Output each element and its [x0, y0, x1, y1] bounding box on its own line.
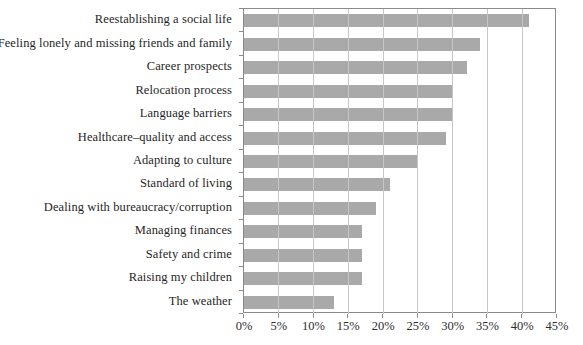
- category-label: Adapting to culture: [0, 149, 238, 172]
- y-axis-tick: [239, 196, 243, 197]
- gridline: [383, 9, 384, 314]
- x-tick-label: 30%: [441, 319, 464, 334]
- x-tick-label: 45%: [546, 319, 569, 334]
- category-label: Safety and crime: [0, 243, 238, 266]
- x-tick-label: 15%: [337, 319, 360, 334]
- y-axis-tick: [239, 125, 243, 126]
- plot-area: [243, 8, 556, 313]
- x-tick-label: 25%: [406, 319, 429, 334]
- y-axis-tick: [239, 313, 243, 314]
- category-label: Relocation process: [0, 78, 238, 101]
- x-axis-tick: [278, 314, 279, 318]
- x-axis-tick: [486, 314, 487, 318]
- bar: [244, 202, 376, 215]
- category-label: Raising my children: [0, 266, 238, 289]
- x-axis-tick: [556, 314, 557, 318]
- gridline: [522, 9, 523, 314]
- bar: [244, 296, 334, 309]
- gridline: [487, 9, 488, 314]
- x-axis-tick: [347, 314, 348, 318]
- bar: [244, 225, 362, 238]
- x-axis-tick: [243, 314, 244, 318]
- x-tick-label: 0%: [236, 319, 253, 334]
- y-axis-tick: [239, 102, 243, 103]
- y-axis-tick: [239, 8, 243, 9]
- category-label: Feeling lonely and missing friends and f…: [0, 31, 238, 54]
- x-tick-label: 10%: [302, 319, 325, 334]
- bar: [244, 132, 446, 145]
- y-axis-tick: [239, 55, 243, 56]
- category-label: Healthcare–quality and access: [0, 125, 238, 148]
- x-axis-tick: [313, 314, 314, 318]
- x-tick-label: 5%: [270, 319, 287, 334]
- bar: [244, 38, 480, 51]
- bar: [244, 272, 362, 285]
- x-tick-label: 40%: [511, 319, 534, 334]
- x-tick-label: 35%: [476, 319, 499, 334]
- gridline: [417, 9, 418, 314]
- category-label: Career prospects: [0, 55, 238, 78]
- y-axis-tick: [239, 290, 243, 291]
- y-axis-tick: [239, 78, 243, 79]
- x-axis-tick: [452, 314, 453, 318]
- y-axis-tick: [239, 149, 243, 150]
- gridline: [278, 9, 279, 314]
- y-axis-tick: [239, 31, 243, 32]
- gridline: [452, 9, 453, 314]
- x-tick-label: 20%: [372, 319, 395, 334]
- x-axis-tick: [382, 314, 383, 318]
- category-label: Language barriers: [0, 102, 238, 125]
- category-label: Managing finances: [0, 219, 238, 242]
- category-label: The weather: [0, 290, 238, 313]
- bar: [244, 178, 390, 191]
- y-axis-tick: [239, 266, 243, 267]
- category-label: Reestablishing a social life: [0, 8, 238, 31]
- gridline: [348, 9, 349, 314]
- x-axis-tick: [417, 314, 418, 318]
- y-axis-tick: [239, 172, 243, 173]
- gridline: [313, 9, 314, 314]
- y-axis-tick: [239, 243, 243, 244]
- bar: [244, 249, 362, 262]
- category-label: Dealing with bureaucracy/corruption: [0, 196, 238, 219]
- y-axis-tick: [239, 219, 243, 220]
- category-label: Standard of living: [0, 172, 238, 195]
- bar: [244, 155, 418, 168]
- bar-chart: Reestablishing a social lifeFeeling lone…: [0, 0, 583, 345]
- x-axis-tick: [521, 314, 522, 318]
